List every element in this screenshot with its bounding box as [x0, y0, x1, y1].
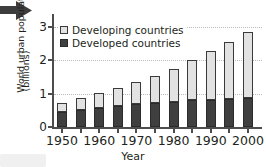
x-axis-tick: [80, 128, 82, 133]
bar-1985: [187, 60, 197, 127]
bar-1950: [57, 103, 67, 127]
bar-segment-developing: [76, 98, 86, 110]
y-axis-line: [52, 14, 54, 128]
bar-1995: [224, 42, 234, 127]
bar-segment-developing: [94, 93, 104, 108]
x-axis-tick-label: 1960: [83, 135, 115, 148]
bar-segment-developed: [169, 102, 179, 127]
y-axis-title-units: (billions): [16, 36, 34, 106]
bar-segment-developing: [187, 60, 197, 100]
x-axis-tick-label: 1970: [120, 135, 152, 148]
x-axis-tick-label: 1980: [158, 135, 190, 148]
legend-label: Developing countries: [72, 25, 184, 36]
bar-1965: [113, 88, 123, 127]
bar-segment-developed: [224, 99, 234, 127]
x-axis-tick-label: 2000: [232, 135, 264, 148]
y-axis-tick: [48, 126, 54, 128]
bar-segment-developed: [243, 98, 253, 127]
legend-item-developing: Developing countries: [60, 25, 184, 36]
bar-1975: [150, 76, 160, 127]
bar-segment-developed: [57, 112, 67, 127]
bar-segment-developed: [206, 100, 216, 127]
bar-segment-developing: [206, 51, 216, 99]
legend-swatch-developed: [60, 39, 68, 47]
y-axis-tick-label: 0: [39, 121, 47, 133]
bar-segment-developed: [131, 104, 141, 127]
bar-segment-developing: [169, 69, 179, 102]
legend-swatch-developing: [60, 26, 68, 34]
legend-label: Developed countries: [72, 38, 180, 49]
bar-1990: [206, 51, 216, 127]
x-axis-tick: [154, 128, 156, 133]
bar-segment-developed: [150, 103, 160, 127]
x-axis-tick-label: 1950: [46, 135, 78, 148]
bar-segment-developing: [113, 88, 123, 106]
bar-segment-developed: [76, 110, 86, 127]
bar-1980: [169, 69, 179, 127]
y-axis-tick: [48, 26, 54, 28]
bar-segment-developed: [94, 108, 104, 127]
y-axis-tick: [48, 59, 54, 61]
bar-1960: [94, 93, 104, 127]
legend-item-developed: Developed countries: [60, 38, 184, 49]
x-axis-tick: [228, 128, 230, 133]
y-axis-tick-label: 3: [39, 21, 47, 33]
y-axis-tick-label: 1: [39, 88, 47, 100]
bar-segment-developed: [113, 106, 123, 127]
bar-segment-developing: [224, 42, 234, 99]
bar-segment-developing: [57, 103, 67, 112]
bar-segment-developed: [187, 100, 197, 127]
y-axis-tick-label: 2: [39, 54, 47, 66]
x-axis-title: Year: [0, 150, 266, 163]
y-axis-tick: [48, 93, 54, 95]
bar-segment-developing: [150, 76, 160, 103]
chart-figure: World urban population (billions) 0123 1…: [0, 0, 266, 167]
x-axis-tick: [117, 128, 119, 133]
bar-segment-developing: [131, 82, 141, 104]
x-axis-tick-label: 1990: [195, 135, 227, 148]
chart-legend: Developing countriesDeveloped countries: [59, 24, 187, 49]
bar-1970: [131, 82, 141, 127]
bar-segment-developing: [243, 32, 253, 98]
x-axis-line: [52, 127, 262, 129]
x-axis-tick: [191, 128, 193, 133]
bar-2000: [243, 32, 253, 127]
bar-1955: [76, 98, 86, 127]
